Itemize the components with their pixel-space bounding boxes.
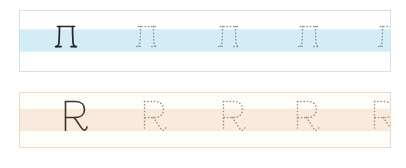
glyph-trace-r-3[interactable] <box>288 93 324 147</box>
glyph-track-peach <box>20 93 390 147</box>
glyph-trace-el-2[interactable] <box>212 11 246 71</box>
latin-r-dotted-icon <box>135 97 171 137</box>
latin-r-dotted-icon <box>365 97 391 137</box>
glyph-example-r-solid[interactable] <box>56 93 92 147</box>
glyph-trace-r-4[interactable] <box>365 93 391 147</box>
cyrillic-el-dotted-icon <box>292 20 326 54</box>
glyph-example-el-solid[interactable] <box>49 11 83 71</box>
glyph-trace-el-4[interactable] <box>372 11 391 71</box>
glyph-trace-el-1[interactable] <box>130 11 164 71</box>
glyph-trace-r-2[interactable] <box>214 93 250 147</box>
worksheet-canvas <box>0 0 406 168</box>
latin-r-solid-icon <box>56 97 92 137</box>
latin-r-dotted-icon <box>288 97 324 137</box>
practice-row-peach[interactable] <box>19 92 391 148</box>
latin-r-dotted-icon <box>214 97 250 137</box>
glyph-trace-r-1[interactable] <box>135 93 171 147</box>
cyrillic-el-dotted-icon <box>130 20 164 54</box>
glyph-track-blue <box>20 11 390 71</box>
cyrillic-el-dotted-icon <box>372 20 391 54</box>
cyrillic-el-dotted-icon <box>212 20 246 54</box>
cyrillic-el-solid-icon <box>49 20 83 54</box>
practice-row-blue[interactable] <box>19 10 391 72</box>
glyph-trace-el-3[interactable] <box>292 11 326 71</box>
